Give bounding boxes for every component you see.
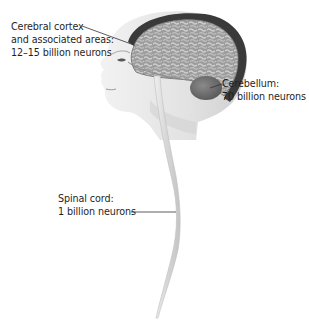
- cerebellum: [190, 76, 222, 100]
- cerebellum-label-line1: Cerebellum:: [222, 77, 306, 90]
- spinal-cord-label: Spinal cord: 1 billion neurons: [58, 192, 136, 218]
- cerebellum-label-line2: 70 billion neurons: [222, 90, 306, 103]
- cerebellum-label: Cerebellum: 70 billion neurons: [222, 77, 306, 103]
- cerebral-cortex-label-line3: 12–15 billion neurons: [11, 46, 114, 59]
- cerebral-cortex-label: Cerebral cortex and associated areas: 12…: [11, 20, 114, 59]
- spinal-cord-label-line1: Spinal cord:: [58, 192, 136, 205]
- spinal-cord-label-line2: 1 billion neurons: [58, 205, 136, 218]
- cerebral-cortex-label-line1: Cerebral cortex: [11, 20, 114, 33]
- cerebral-cortex-label-line2: and associated areas:: [11, 33, 114, 46]
